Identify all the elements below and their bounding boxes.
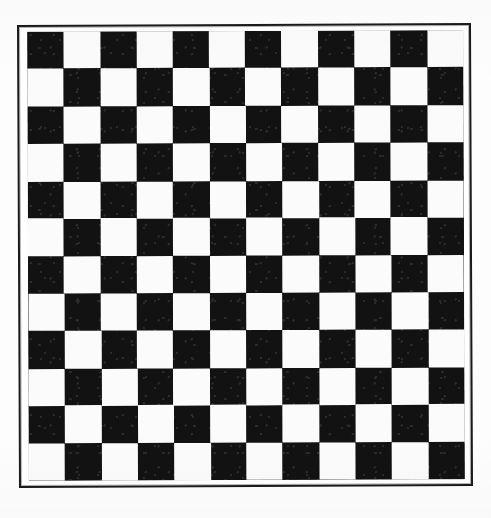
board-cell (210, 443, 246, 481)
board-cell (29, 294, 65, 332)
board-cell (354, 30, 390, 67)
board-cell (246, 330, 282, 368)
board-cell (100, 144, 136, 182)
board-cell (319, 368, 355, 406)
board-cell (28, 331, 64, 369)
board-cell (391, 105, 427, 143)
board-cell (282, 293, 318, 331)
board-cell (318, 143, 354, 181)
board-cell (319, 255, 355, 293)
board-cell (27, 106, 63, 144)
board-cell (64, 106, 100, 144)
board-cell (100, 293, 136, 331)
board-cell (100, 31, 136, 69)
board-cell (64, 256, 100, 294)
board-cell (318, 105, 354, 143)
board-cell (173, 368, 209, 406)
board-cell (173, 144, 209, 182)
board-cell (174, 442, 210, 480)
board-cell (392, 368, 428, 406)
board-cell (64, 69, 100, 107)
board-cell (65, 331, 101, 369)
board-cell (427, 255, 463, 293)
board-cell (28, 256, 64, 294)
board-cell (428, 217, 464, 255)
board-cell (64, 144, 100, 182)
board-cell (281, 106, 317, 144)
board-cell (354, 181, 390, 219)
board-cell (282, 68, 318, 106)
board-cell (427, 30, 463, 67)
board-cell (137, 368, 173, 406)
board-cell (100, 181, 136, 219)
board-cell (101, 369, 137, 407)
board-cell (428, 404, 464, 442)
board-cell (100, 218, 136, 256)
board-cell (65, 443, 101, 481)
board-cell (427, 142, 463, 180)
board-cell (428, 330, 464, 368)
board-cell (64, 182, 100, 220)
board-cell (137, 31, 173, 69)
board-cell (354, 68, 390, 106)
board-cell (283, 367, 319, 405)
board-cell (356, 442, 392, 480)
board-cell (392, 330, 428, 368)
board-cell (27, 32, 63, 70)
board-cell (319, 442, 355, 480)
board-cell (65, 368, 101, 406)
board-cell (64, 31, 100, 69)
board-cell (173, 106, 209, 144)
board-cell (355, 218, 391, 256)
board-cell (319, 217, 355, 255)
board-cell (210, 255, 246, 293)
board-cell (355, 330, 391, 368)
board-cell (319, 330, 355, 368)
page-canvas (0, 0, 491, 518)
board-cell (136, 69, 172, 107)
board-cell (100, 106, 136, 144)
board-cell (137, 144, 173, 182)
board-cell (137, 331, 173, 369)
board-cell (65, 405, 101, 443)
board-cell (209, 68, 245, 106)
board-cell (173, 68, 209, 106)
board-cell (246, 143, 282, 181)
board-cell (282, 143, 318, 181)
board-cell (138, 443, 174, 481)
board-cell (318, 31, 354, 69)
board-cell (283, 330, 319, 368)
board-cell (137, 218, 173, 256)
board-cell (101, 406, 137, 444)
board-cell (391, 143, 427, 181)
board-cell (427, 105, 463, 143)
board-cell (319, 405, 355, 443)
board-cell (101, 256, 137, 294)
board-cell (281, 30, 317, 68)
board-cell (392, 405, 428, 443)
board-cell (319, 293, 355, 331)
board-cell (209, 143, 245, 181)
board-cell (210, 405, 246, 443)
board-cell (173, 218, 209, 256)
board-cell (137, 256, 173, 294)
checkerboard-grid (27, 30, 465, 481)
board-cell (29, 369, 65, 407)
board-cell (27, 144, 63, 182)
board-cell (391, 30, 427, 68)
board-cell (210, 293, 246, 331)
board-cell (355, 292, 391, 330)
board-cell (318, 180, 354, 218)
board-cell (318, 68, 354, 106)
board-cell (173, 256, 209, 294)
board-cell (283, 255, 319, 293)
board-cell (174, 330, 210, 368)
board-cell (174, 405, 210, 443)
board-cell (246, 218, 282, 256)
board-cell (173, 181, 209, 219)
board-cell (428, 442, 464, 480)
board-cell (28, 181, 64, 219)
board-cell (428, 292, 464, 330)
board-cell (246, 442, 282, 480)
board-cell (245, 31, 281, 69)
